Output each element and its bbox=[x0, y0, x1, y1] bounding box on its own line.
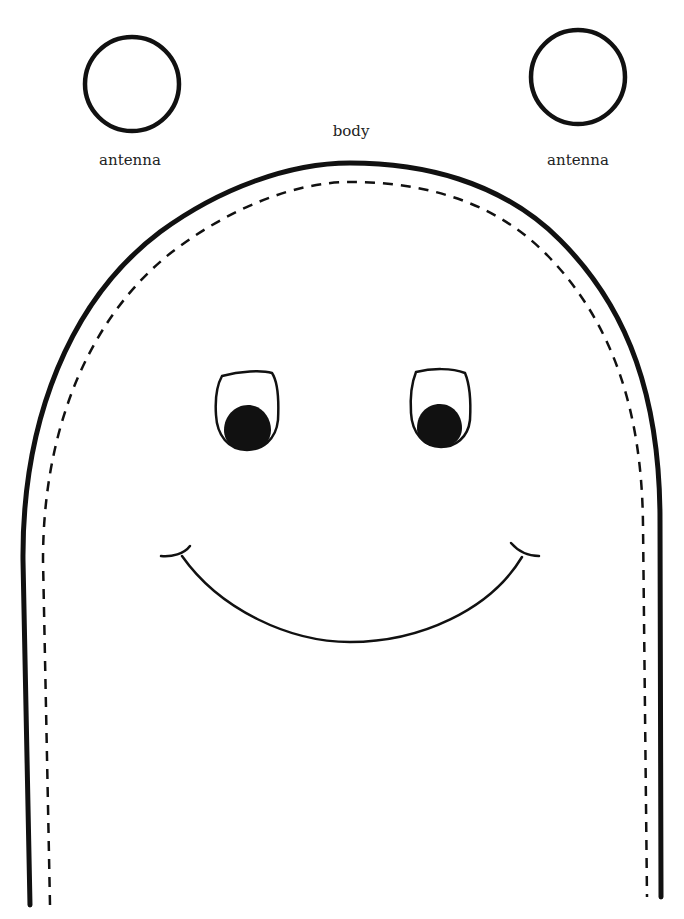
right-eye-pupil bbox=[417, 404, 462, 447]
smile-left-tick bbox=[161, 546, 190, 556]
antenna-left-label: antenna bbox=[99, 151, 161, 169]
body-dashed-line bbox=[43, 182, 647, 905]
smile-curve bbox=[182, 556, 522, 642]
left-eye-pupil bbox=[224, 405, 271, 450]
body-outline bbox=[23, 163, 661, 905]
puppet-pattern: antenna antenna body bbox=[0, 0, 684, 919]
antenna-right-label: antenna bbox=[547, 151, 609, 169]
left-eye bbox=[216, 371, 279, 450]
right-eye bbox=[411, 369, 471, 447]
antenna-right-circle bbox=[531, 30, 625, 124]
body-label: body bbox=[333, 122, 370, 140]
smile bbox=[161, 543, 539, 642]
antenna-left-circle bbox=[85, 37, 179, 131]
smile-right-tick bbox=[511, 543, 539, 556]
